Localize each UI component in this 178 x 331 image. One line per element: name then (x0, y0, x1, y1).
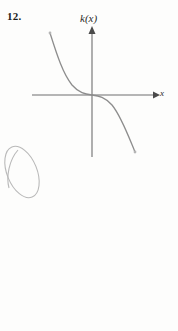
problem-13: 13. m(x) x (0, 165, 178, 331)
worksheet-page: 12. k(x) x 13. m(x) x (0, 0, 178, 331)
